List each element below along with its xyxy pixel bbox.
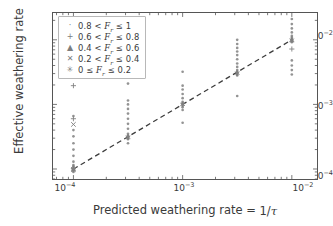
legend-box[interactable]: · 0.8 < Fr ≤ 1 + 0.6 < Fr ≤ 0.8 ▲ 0.4 < …	[58, 16, 146, 79]
data-point	[290, 31, 293, 34]
scatter-plot-figure: Effective weathering rate 10−2 10−3 10−4…	[0, 0, 333, 226]
point-marker-icon: ·	[62, 20, 78, 31]
data-point	[181, 88, 184, 91]
data-point	[127, 117, 130, 120]
triangle-marker-icon: ▲	[62, 42, 78, 53]
x-marker-icon: ✕	[62, 53, 78, 64]
legend-label-3: 0.2 < Fr ≤ 0.4	[78, 54, 139, 64]
legend-item-1[interactable]: + 0.6 < Fr ≤ 0.8	[62, 31, 139, 42]
legend-item-0[interactable]: · 0.8 < Fr ≤ 1	[62, 20, 139, 31]
data-point	[236, 54, 239, 57]
data-point	[72, 154, 75, 157]
data-point	[290, 69, 293, 72]
data-point	[180, 102, 185, 108]
data-point	[181, 109, 184, 112]
x-label-fraction: 1/τ	[259, 204, 277, 218]
x-tick-label-2: 10−3	[164, 183, 204, 193]
data-point	[236, 62, 239, 65]
data-point	[72, 142, 75, 145]
data-point	[127, 99, 130, 102]
data-point	[289, 46, 294, 51]
data-point	[236, 66, 239, 69]
data-point	[290, 64, 293, 67]
data-point	[236, 95, 239, 98]
x-tick-label-1: 10−4	[45, 183, 85, 193]
data-point	[181, 84, 184, 87]
y-axis-label: Effective weathering rate	[12, 1, 26, 161]
data-point	[71, 83, 76, 88]
data-point	[236, 38, 239, 41]
data-point	[72, 135, 75, 138]
legend-label-2: 0.4 < Fr ≤ 0.6	[78, 43, 139, 53]
legend-item-3[interactable]: ✕ 0.2 < Fr ≤ 0.4	[62, 53, 139, 64]
legend-label-0: 0.8 < Fr ≤ 1	[78, 21, 131, 31]
data-point	[236, 58, 239, 61]
data-point	[181, 97, 184, 100]
data-point	[127, 142, 130, 145]
data-point	[236, 47, 239, 50]
data-point	[127, 108, 130, 111]
legend-label-4: 0 ≤ Fr ≤ 0.2	[78, 65, 131, 75]
star-marker-icon: ✳	[62, 64, 78, 75]
x-axis-label: Predicted weathering rate = 1/τ	[52, 203, 318, 217]
data-point	[72, 160, 75, 163]
data-point	[181, 93, 184, 96]
data-point	[236, 43, 239, 46]
data-point	[127, 82, 130, 85]
data-point	[72, 148, 75, 151]
data-point	[127, 112, 130, 115]
legend-label-1: 0.6 < Fr ≤ 0.8	[78, 32, 139, 42]
data-point	[236, 50, 239, 53]
x-tick-label-3: 10−2	[283, 183, 323, 193]
legend-item-4[interactable]: ✳ 0 ≤ Fr ≤ 0.2	[62, 64, 139, 75]
data-point	[290, 59, 293, 62]
data-point	[181, 121, 184, 124]
legend-item-2[interactable]: ▲ 0.4 < Fr ≤ 0.6	[62, 42, 139, 53]
data-point	[71, 122, 76, 127]
data-point	[290, 27, 293, 30]
data-point	[127, 127, 130, 130]
plus-marker-icon: +	[62, 31, 78, 42]
data-point	[290, 73, 293, 76]
data-point	[181, 70, 184, 73]
data-point	[290, 18, 293, 21]
data-point	[290, 35, 293, 38]
data-point	[72, 129, 75, 132]
data-point	[71, 116, 76, 121]
data-point	[290, 23, 293, 26]
data-point	[127, 123, 130, 126]
data-point	[127, 103, 130, 106]
